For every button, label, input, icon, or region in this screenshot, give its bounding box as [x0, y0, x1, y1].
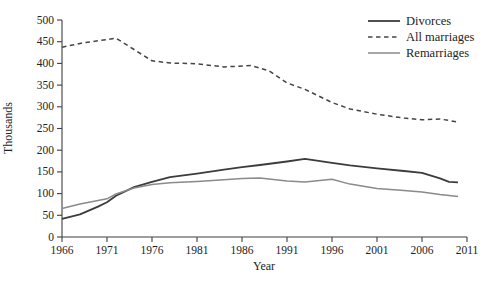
y-tick-label: 50 [43, 209, 55, 221]
remarriages-legend-label: Remarriages [406, 46, 469, 60]
legend-item-divorces: Divorces [368, 14, 451, 28]
y-tick-label: 0 [48, 231, 54, 243]
y-tick-label: 150 [37, 165, 55, 177]
y-tick-label: 300 [37, 100, 55, 112]
x-tick-label: 1976 [141, 244, 164, 256]
x-axis-label: Year [253, 259, 275, 273]
x-tick-label: 2011 [456, 244, 479, 256]
all-marriages-line [62, 38, 458, 122]
y-tick-label: 250 [37, 122, 55, 134]
legend-item-all-marriages: All marriages [368, 30, 475, 44]
x-tick-label: 1991 [276, 244, 299, 256]
all-marriages-legend-label: All marriages [406, 30, 475, 44]
x-tick-label: 1971 [96, 244, 119, 256]
chart-figure: 0501001502002503003504004505001966197119… [0, 0, 498, 286]
x-tick-label: 1986 [231, 244, 254, 256]
x-tick-label: 1966 [51, 244, 74, 256]
x-tick-label: 1981 [186, 244, 209, 256]
x-tick-label: 2001 [366, 244, 389, 256]
legend-item-remarriages: Remarriages [368, 46, 469, 60]
legend: Divorces All marriages Remarriages [368, 14, 475, 60]
x-tick-label: 2006 [411, 244, 434, 256]
x-tick-label: 1996 [321, 244, 344, 256]
y-tick-label: 450 [37, 35, 55, 47]
y-tick-label: 100 [37, 187, 55, 199]
y-tick-label: 400 [37, 57, 55, 69]
y-tick-label: 500 [37, 14, 55, 26]
y-axis-label: Thousands [1, 102, 15, 154]
divorces-legend-label: Divorces [406, 14, 451, 28]
y-tick-label: 350 [37, 79, 55, 91]
line-chart: 0501001502002503003504004505001966197119… [0, 0, 498, 286]
y-tick-label: 200 [37, 144, 55, 156]
divorces-line [62, 159, 458, 219]
